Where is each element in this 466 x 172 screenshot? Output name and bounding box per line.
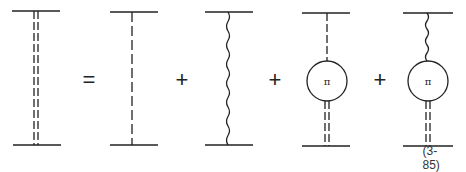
plus-sign: + xyxy=(374,69,387,91)
lhs-diagram xyxy=(12,11,61,145)
plus-sign: + xyxy=(269,69,282,91)
term-2-diagram xyxy=(205,12,253,145)
equals-sign: = xyxy=(83,69,96,91)
wavy-line xyxy=(227,12,230,145)
pi-label: π xyxy=(425,76,432,87)
feynman-diagram-equation: π π xyxy=(0,0,466,172)
equation-number: (3-85) xyxy=(423,144,452,172)
wavy-line xyxy=(426,13,429,61)
plus-sign: + xyxy=(176,69,189,91)
term-1-diagram xyxy=(110,12,158,145)
pi-label: π xyxy=(324,76,331,87)
